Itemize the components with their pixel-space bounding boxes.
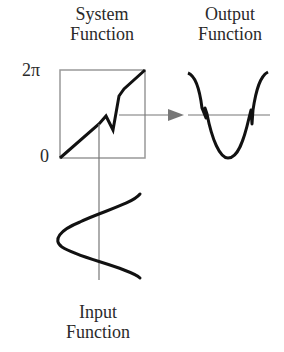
arrow-head-icon — [168, 109, 184, 121]
system-function-title-line2: Function — [52, 24, 152, 44]
system-function-curve — [60, 70, 145, 158]
y-max-tick-label: 2π — [22, 60, 40, 81]
output-function-title: Output Function — [180, 4, 280, 44]
input-function-title-line1: Input — [48, 302, 148, 322]
input-function-title-line2: Function — [48, 322, 148, 342]
diagram-canvas — [0, 0, 284, 352]
output-function-title-line2: Function — [180, 24, 280, 44]
y-min-tick-label: 0 — [40, 146, 49, 167]
system-function-title: System Function — [52, 4, 152, 44]
system-function-title-line1: System — [52, 4, 152, 24]
input-function-title: Input Function — [48, 302, 148, 342]
output-function-title-line1: Output — [180, 4, 280, 24]
